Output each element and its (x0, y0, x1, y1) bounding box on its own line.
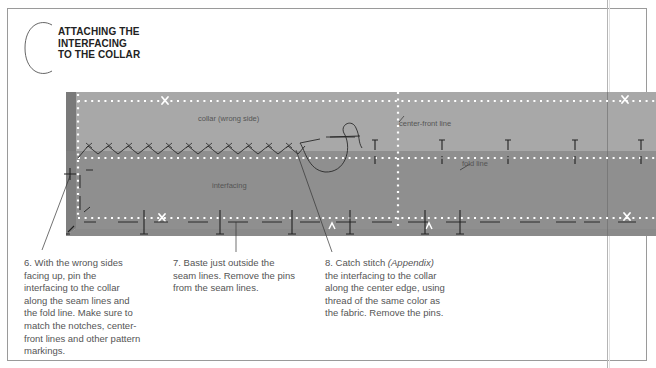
step-8-number: 8. (325, 257, 333, 268)
label-fold-line: fold line (462, 159, 488, 168)
step-7: 7. Baste just outside the seam lines. Re… (173, 257, 303, 295)
appendix-reference: (Appendix) (388, 257, 434, 268)
label-center-front-line: center-front line (399, 119, 451, 128)
step-6: 6. With the wrong sides facing up, pin t… (24, 257, 174, 358)
fabric-bottom-shadow (66, 228, 656, 236)
collar-fabric (76, 92, 656, 152)
step-7-number: 7. (173, 257, 181, 268)
label-collar: collar (wrong side) (198, 114, 259, 123)
step-6-number: 6. (24, 257, 32, 268)
label-interfacing: interfacing (212, 181, 247, 190)
step-8: 8. Catch stitch (Appendix) the interfaci… (325, 257, 465, 320)
